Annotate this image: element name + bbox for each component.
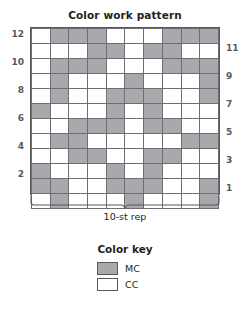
pattern-cell: [69, 164, 88, 179]
pattern-cell: [162, 164, 181, 179]
color-key-title: Color key: [0, 243, 250, 255]
pattern-cell: [200, 164, 219, 179]
pattern-cell: [50, 29, 69, 44]
color-key-entries: MCCC: [0, 262, 250, 291]
pattern-cell: [181, 119, 200, 134]
pattern-cell: [88, 134, 107, 149]
pattern-row: [32, 104, 219, 119]
pattern-cell: [88, 119, 107, 134]
pattern-cell: [106, 74, 125, 89]
pattern-cell: [32, 179, 51, 194]
pattern-cell: [144, 164, 163, 179]
pattern-cell: [69, 89, 88, 104]
pattern-cell: [69, 74, 88, 89]
pattern-cell: [144, 89, 163, 104]
pattern-cell: [88, 104, 107, 119]
pattern-cell: [200, 74, 219, 89]
pattern-cell: [200, 44, 219, 59]
pattern-cell: [125, 134, 144, 149]
pattern-cell: [88, 149, 107, 164]
pattern-cell: [32, 44, 51, 59]
pattern-cell: [69, 59, 88, 74]
pattern-cell: [200, 89, 219, 104]
pattern-cell: [162, 149, 181, 164]
pattern-cell: [125, 44, 144, 59]
pattern-cell: [162, 74, 181, 89]
row-numbers-left: 12108642: [0, 27, 28, 195]
row-number-4: 4: [18, 139, 24, 153]
pattern-cell: [88, 29, 107, 44]
pattern-cell: [88, 164, 107, 179]
pattern-cell: [50, 179, 69, 194]
pattern-cell: [162, 59, 181, 74]
pattern-cell: [50, 164, 69, 179]
pattern-cell: [106, 164, 125, 179]
pattern-cell: [181, 74, 200, 89]
pattern-cell: [181, 29, 200, 44]
color-key: Color key MCCC: [0, 243, 250, 294]
pattern-cell: [200, 104, 219, 119]
pattern-cell: [181, 104, 200, 119]
color-swatch-mc: [97, 262, 118, 275]
row-number-2: 2: [18, 167, 24, 181]
pattern-cell: [162, 134, 181, 149]
pattern-cell: [50, 59, 69, 74]
pattern-row: [32, 119, 219, 134]
row-number-10: 10: [11, 55, 24, 69]
repeat-label: 10-st rep: [0, 211, 250, 222]
pattern-cell: [200, 29, 219, 44]
pattern-cell: [69, 104, 88, 119]
pattern-cell: [32, 29, 51, 44]
color-key-label: MC: [125, 263, 153, 274]
repeat-bracket: [30, 196, 220, 209]
pattern-cell: [69, 119, 88, 134]
pattern-grid-body: [32, 29, 219, 209]
color-swatch-cc: [97, 278, 118, 291]
pattern-row: [32, 29, 219, 44]
pattern-cell: [69, 149, 88, 164]
pattern-cell: [125, 164, 144, 179]
page-title: Color work pattern: [0, 0, 250, 21]
pattern-cell: [125, 104, 144, 119]
pattern-cell: [144, 104, 163, 119]
pattern-cell: [32, 119, 51, 134]
pattern-cell: [106, 29, 125, 44]
pattern-cell: [32, 74, 51, 89]
pattern-cell: [144, 179, 163, 194]
pattern-cell: [50, 119, 69, 134]
pattern-grid: [30, 27, 220, 195]
row-number-3: 3: [226, 153, 232, 167]
row-number-11: 11: [226, 41, 239, 55]
pattern-row: [32, 149, 219, 164]
color-key-row-mc: MC: [0, 262, 250, 275]
pattern-cell: [200, 149, 219, 164]
pattern-cell: [32, 104, 51, 119]
row-number-9: 9: [226, 69, 232, 83]
pattern-row: [32, 164, 219, 179]
pattern-cell: [162, 29, 181, 44]
row-number-5: 5: [226, 125, 232, 139]
pattern-cell: [69, 179, 88, 194]
pattern-cell: [32, 89, 51, 104]
pattern-cell: [144, 44, 163, 59]
row-numbers-right: 1197531: [222, 27, 250, 195]
pattern-row: [32, 89, 219, 104]
pattern-cell: [162, 104, 181, 119]
pattern-cell: [88, 59, 107, 74]
color-key-label: CC: [125, 279, 153, 290]
pattern-cell: [200, 179, 219, 194]
pattern-cell: [69, 44, 88, 59]
pattern-row: [32, 59, 219, 74]
pattern-cell: [181, 44, 200, 59]
row-number-6: 6: [18, 111, 24, 125]
pattern-cell: [32, 164, 51, 179]
pattern-cell: [106, 59, 125, 74]
row-number-1: 1: [226, 181, 232, 195]
pattern-cell: [162, 179, 181, 194]
pattern-cell: [162, 89, 181, 104]
pattern-cell: [125, 179, 144, 194]
pattern-row: [32, 179, 219, 194]
pattern-cell: [50, 149, 69, 164]
pattern-row: [32, 44, 219, 59]
pattern-cell: [88, 74, 107, 89]
